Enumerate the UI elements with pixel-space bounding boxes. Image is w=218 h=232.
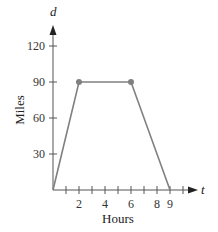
data-point-6-90 bbox=[128, 79, 134, 85]
x-tick-label-6: 6 bbox=[128, 197, 134, 211]
y-axis-title: Miles bbox=[12, 95, 27, 125]
x-tick-label-2: 2 bbox=[76, 197, 82, 211]
y-tick-label-60: 60 bbox=[33, 111, 45, 125]
distance-series-line bbox=[53, 82, 170, 190]
x-axis-title: Hours bbox=[102, 211, 134, 226]
x-axis-arrow-icon bbox=[188, 187, 198, 194]
x-tick-label-9: 9 bbox=[167, 197, 173, 211]
distance-time-chart: d t 30 60 90 120 2 4 6 8 9 Hours Miles bbox=[0, 0, 218, 232]
x-tick-label-8: 8 bbox=[154, 197, 160, 211]
data-point-2-90 bbox=[76, 79, 82, 85]
y-tick-label-90: 90 bbox=[33, 75, 45, 89]
y-tick-label-30: 30 bbox=[33, 147, 45, 161]
x-tick-label-4: 4 bbox=[102, 197, 108, 211]
x-axis-variable: t bbox=[201, 182, 205, 197]
y-tick-label-120: 120 bbox=[27, 39, 45, 53]
y-axis-arrow-icon bbox=[50, 25, 57, 35]
y-axis-variable: d bbox=[50, 4, 57, 19]
